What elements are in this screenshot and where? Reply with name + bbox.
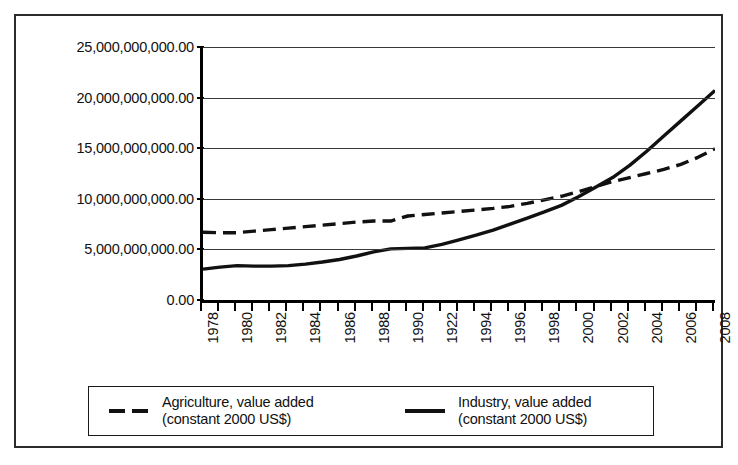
x-axis-tick-label: 1994 xyxy=(478,312,494,343)
legend-agriculture-line1: Agriculture, value added xyxy=(162,394,314,410)
x-axis-tickmark xyxy=(200,303,202,311)
y-axis-tick-label: 15,000,000,000.00 xyxy=(76,140,194,156)
x-axis-tickmark xyxy=(285,303,287,311)
x-axis-tickmark xyxy=(302,303,304,311)
x-axis-tickmark xyxy=(405,303,407,311)
x-axis-tick-label: 2002 xyxy=(615,312,631,343)
x-axis-tick-label: 1982 xyxy=(273,312,289,343)
x-axis-tickmark xyxy=(388,303,390,311)
x-axis-tickmark xyxy=(319,303,321,311)
x-axis-tickmark xyxy=(439,303,441,311)
x-axis-tick-label: 1986 xyxy=(342,312,358,343)
plot-area xyxy=(200,47,715,303)
x-axis-tick-label: 1978 xyxy=(205,312,221,343)
x-axis-tick-label: 1988 xyxy=(376,312,392,343)
dashed-line-swatch-icon xyxy=(107,404,153,418)
x-axis-tickmark xyxy=(371,303,373,311)
x-axis-tick-label: 1984 xyxy=(307,312,323,343)
solid-line-swatch-icon xyxy=(403,404,449,418)
x-axis-tickmark xyxy=(610,303,612,311)
x-axis-tickmark xyxy=(251,303,253,311)
plot-top-rule xyxy=(203,47,715,48)
x-axis-tickmark xyxy=(575,303,577,311)
x-axis-tickmark xyxy=(354,303,356,311)
x-axis-tickmark xyxy=(422,303,424,311)
y-axis-labels: 25,000,000,000.0020,000,000,000.0015,000… xyxy=(16,47,194,303)
y-axis-tick-label: 25,000,000,000.00 xyxy=(76,39,194,55)
y-axis-tick-label: 5,000,000,000.00 xyxy=(84,241,194,257)
x-axis-tickmark xyxy=(268,303,270,311)
x-axis-tick-label: 2004 xyxy=(649,312,665,343)
x-axis-tick-label: 2000 xyxy=(580,312,596,343)
gridline xyxy=(203,199,715,200)
x-axis-tick-label: 2006 xyxy=(683,312,699,343)
x-axis-tickmark xyxy=(558,303,560,311)
x-axis-labels: 1978198019821984198619881990192219941996… xyxy=(200,312,715,374)
x-axis-tickmark xyxy=(490,303,492,311)
x-axis-tickmark xyxy=(217,303,219,311)
x-axis-tickmark xyxy=(337,303,339,311)
gridline xyxy=(203,249,715,250)
x-axis-tickmark xyxy=(541,303,543,311)
x-axis-tick-label: 1996 xyxy=(512,312,528,343)
x-axis-tickmark xyxy=(524,303,526,311)
legend-item-industry: Industry, value added (constant 2000 US$… xyxy=(403,394,591,428)
x-axis-tickmark xyxy=(593,303,595,311)
x-axis-tick-label: 1922 xyxy=(444,312,460,343)
x-axis-tickmark xyxy=(456,303,458,311)
y-axis-tick-label: 10,000,000,000.00 xyxy=(76,191,194,207)
x-axis-tickmark xyxy=(627,303,629,311)
x-axis-tickmark xyxy=(712,303,714,311)
x-axis-tickmark xyxy=(473,303,475,311)
x-axis-tickmark xyxy=(507,303,509,311)
y-axis-tick-label: 20,000,000,000.00 xyxy=(76,90,194,106)
x-axis-tickmark xyxy=(644,303,646,311)
y-axis-tickmark xyxy=(197,299,204,301)
series-layer xyxy=(203,47,715,300)
gridline xyxy=(203,98,715,99)
legend-item-agriculture: Agriculture, value added (constant 2000 … xyxy=(107,394,399,428)
legend-industry-line2: (constant 2000 US$) xyxy=(458,411,587,427)
chart-plot-wrapper: 25,000,000,000.0020,000,000,000.0015,000… xyxy=(16,16,725,450)
x-axis-tick-label: 1998 xyxy=(546,312,562,343)
x-axis-tickmarks xyxy=(200,303,715,312)
series-line-industry xyxy=(203,91,715,270)
legend-industry-line1: Industry, value added xyxy=(458,394,591,410)
x-axis-tickmark xyxy=(234,303,236,311)
x-axis-tick-label: 1990 xyxy=(410,312,426,343)
x-axis-tickmark xyxy=(695,303,697,311)
legend-agriculture-line2: (constant 2000 US$) xyxy=(162,411,291,427)
legend-label-industry: Industry, value added (constant 2000 US$… xyxy=(458,394,591,428)
chart-legend: Agriculture, value added (constant 2000 … xyxy=(88,386,654,436)
series-line-agriculture xyxy=(203,149,715,233)
x-axis-tickmark xyxy=(678,303,680,311)
chart-frame: 25,000,000,000.0020,000,000,000.0015,000… xyxy=(14,14,723,448)
x-axis-tick-label: 2008 xyxy=(717,312,733,343)
gridline xyxy=(203,148,715,149)
x-axis-tick-label: 1980 xyxy=(239,312,255,343)
y-axis-tick-label: 0.00 xyxy=(167,292,194,308)
plot-inner xyxy=(203,47,715,300)
x-axis-tickmark xyxy=(661,303,663,311)
legend-label-agriculture: Agriculture, value added (constant 2000 … xyxy=(162,394,314,428)
